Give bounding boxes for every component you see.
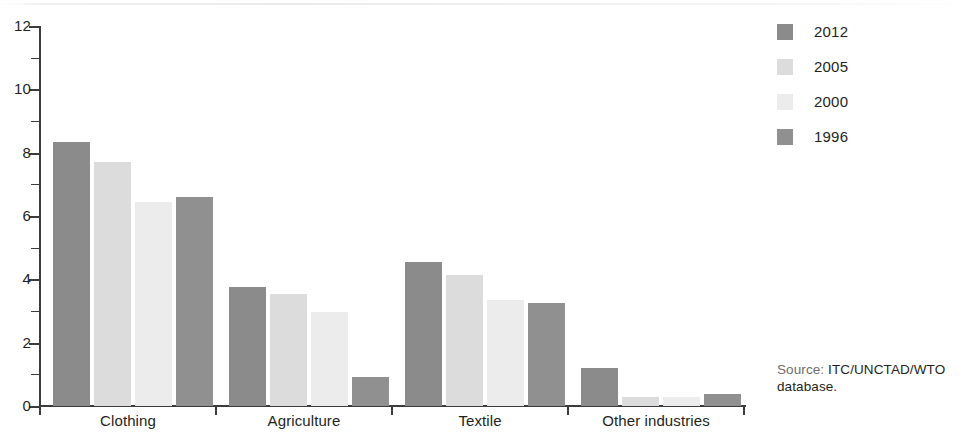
legend-item: 1996 xyxy=(777,119,957,154)
source-note: Source: ITC/UNCTAD/WTO database. xyxy=(777,361,963,395)
legend-label: 2000 xyxy=(814,94,848,109)
bar xyxy=(311,312,348,406)
bar xyxy=(405,262,442,406)
bar xyxy=(704,394,741,406)
x-axis-tick-label: Textile xyxy=(392,412,568,430)
legend-item: 2000 xyxy=(777,84,957,119)
legend-swatch-icon xyxy=(777,94,793,110)
legend-label: 1996 xyxy=(814,129,848,144)
source-label: Source: xyxy=(777,362,824,377)
bar xyxy=(352,377,389,406)
bar xyxy=(446,275,483,406)
bar xyxy=(229,287,266,406)
bars-layer xyxy=(0,26,770,406)
bar xyxy=(663,397,700,406)
x-axis-tick-label: Clothing xyxy=(40,412,216,430)
legend: 2012200520001996 xyxy=(777,14,957,154)
bar xyxy=(176,197,213,406)
bar xyxy=(528,303,565,406)
legend-swatch-icon xyxy=(777,129,793,145)
bar xyxy=(53,142,90,406)
legend-item: 2005 xyxy=(777,49,957,84)
bar xyxy=(581,368,618,406)
bar xyxy=(622,397,659,407)
x-axis-tick-label: Other industries xyxy=(568,412,744,430)
legend-swatch-icon xyxy=(777,24,793,40)
bar-chart: 024681012 ClothingAgricultureTextileOthe… xyxy=(0,0,770,434)
legend-swatch-icon xyxy=(777,59,793,75)
bar xyxy=(94,162,131,406)
bar xyxy=(135,202,172,406)
bar xyxy=(270,294,307,406)
bar xyxy=(487,300,524,406)
legend-label: 2012 xyxy=(814,24,848,39)
x-axis-tick-label: Agriculture xyxy=(216,412,392,430)
legend-label: 2005 xyxy=(814,59,848,74)
legend-item: 2012 xyxy=(777,14,957,49)
